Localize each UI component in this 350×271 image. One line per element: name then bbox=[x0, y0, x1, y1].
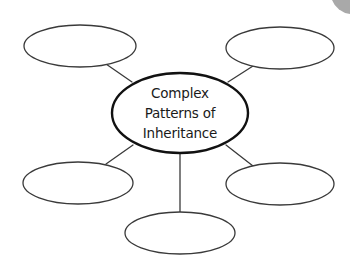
concept-map-canvas: Complex Patterns of Inheritance bbox=[0, 0, 350, 271]
node-top-left-text[interactable] bbox=[30, 30, 130, 62]
node-top-right-text[interactable] bbox=[232, 32, 328, 64]
node-bottom-center-text[interactable] bbox=[131, 217, 229, 249]
corner-mark-icon bbox=[332, 0, 350, 14]
node-bottom-right-text[interactable] bbox=[232, 168, 328, 200]
center-node-label: Complex Patterns of Inheritance bbox=[111, 74, 249, 152]
center-label-line-2: Patterns of bbox=[145, 103, 216, 123]
center-label-line-1: Complex bbox=[151, 83, 209, 103]
center-label-line-3: Inheritance bbox=[143, 123, 217, 143]
node-bottom-left-text[interactable] bbox=[29, 167, 127, 199]
